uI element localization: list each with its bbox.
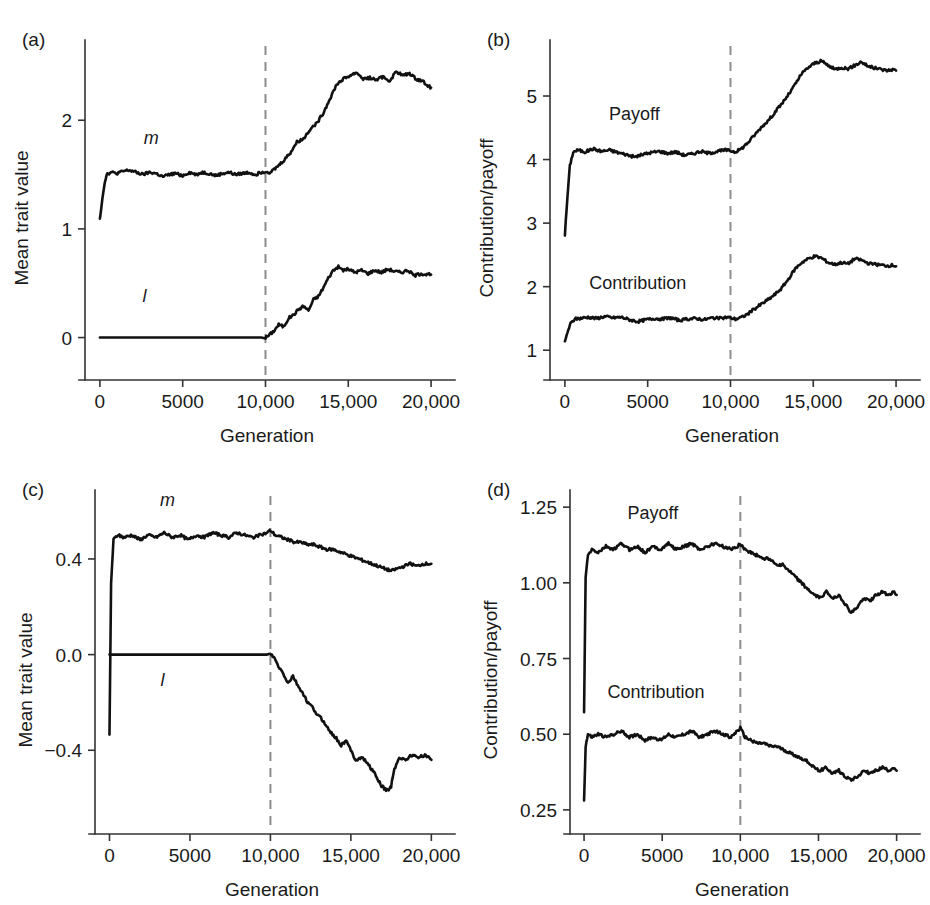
- chart-panel-d: (d)0.250.500.751.001.250500010,00015,000…: [465, 452, 930, 905]
- chart-svg-a: (a)0120500010,00015,00020,000mlGeneratio…: [0, 0, 465, 453]
- series-annotation-label: m: [144, 128, 159, 148]
- x-tick-label: 20,000: [868, 845, 926, 866]
- y-axis-title: Contribution/payoff: [480, 600, 501, 760]
- y-axis-title: Contribution/payoff: [476, 138, 497, 298]
- y-tick-label: 0.75: [520, 649, 557, 670]
- x-tick-label: 20,000: [867, 391, 925, 412]
- series-annotation-label: l: [161, 670, 166, 690]
- x-tick-label: 5000: [641, 845, 683, 866]
- x-tick-label: 10,000: [241, 845, 299, 866]
- y-tick-label: 3: [526, 213, 537, 234]
- panel-letter-c: (c): [22, 479, 44, 500]
- series-annotation-label: l: [143, 286, 148, 306]
- panel-letter-b: (b): [487, 29, 510, 50]
- x-tick-label: 5000: [627, 391, 669, 412]
- chart-svg-d: (d)0.250.500.751.001.250500010,00015,000…: [465, 452, 930, 905]
- chart-panel-a: (a)0120500010,00015,00020,000mlGeneratio…: [0, 0, 465, 452]
- x-tick-label: 20,000: [402, 845, 460, 866]
- y-tick-label: 0.0: [56, 645, 82, 666]
- panel-letter-d: (d): [487, 479, 510, 500]
- x-tick-label: 5000: [169, 845, 211, 866]
- y-tick-label: 2: [526, 277, 537, 298]
- figure-panel-grid: (a)0120500010,00015,00020,000mlGeneratio…: [0, 0, 930, 905]
- x-tick-label: 10,000: [236, 391, 294, 412]
- series-annotation-label: Contribution: [589, 273, 686, 293]
- x-axis-title: Generation: [220, 425, 314, 446]
- y-tick-label: 2: [61, 110, 72, 131]
- x-tick-label: 0: [560, 391, 571, 412]
- x-tick-label: 0: [104, 845, 115, 866]
- series-annotation-label: m: [160, 490, 175, 510]
- y-tick-label: −0.4: [44, 740, 82, 761]
- x-tick-label: 15,000: [322, 845, 380, 866]
- y-tick-label: 0.4: [56, 549, 83, 570]
- y-axis-title: Mean trait value: [11, 150, 32, 285]
- x-tick-label: 15,000: [789, 845, 847, 866]
- x-tick-label: 5000: [162, 391, 204, 412]
- panel-letter-a: (a): [22, 29, 45, 50]
- series-annotation-label: Payoff: [609, 104, 661, 124]
- y-tick-label: 1.25: [520, 497, 557, 518]
- x-tick-label: 15,000: [784, 391, 842, 412]
- x-tick-label: 0: [579, 845, 590, 866]
- x-tick-label: 0: [95, 391, 106, 412]
- x-axis-title: Generation: [695, 879, 789, 900]
- chart-panel-b: (b)123450500010,00015,00020,000PayoffCon…: [465, 0, 930, 452]
- x-axis-title: Generation: [685, 425, 779, 446]
- x-axis-title: Generation: [225, 879, 319, 900]
- y-tick-label: 0.50: [520, 724, 557, 745]
- x-tick-label: 15,000: [319, 391, 377, 412]
- series-annotation-label: Payoff: [627, 503, 679, 523]
- y-tick-label: 5: [526, 86, 537, 107]
- x-tick-label: 10,000: [711, 845, 769, 866]
- y-tick-label: 1: [61, 219, 72, 240]
- data-series-contribution: [565, 255, 896, 341]
- y-axis-title: Mean trait value: [15, 612, 36, 747]
- x-tick-label: 20,000: [402, 391, 460, 412]
- y-tick-label: 0: [61, 328, 72, 349]
- y-tick-label: 1.00: [520, 573, 557, 594]
- chart-svg-c: (c)−0.40.00.40500010,00015,00020,000mlGe…: [0, 452, 465, 905]
- y-tick-label: 0.25: [520, 800, 557, 821]
- chart-svg-b: (b)123450500010,00015,00020,000PayoffCon…: [465, 0, 930, 453]
- chart-panel-c: (c)−0.40.00.40500010,00015,00020,000mlGe…: [0, 452, 465, 905]
- y-tick-label: 1: [526, 340, 537, 361]
- x-tick-label: 10,000: [701, 391, 759, 412]
- y-tick-label: 4: [526, 150, 537, 171]
- series-annotation-label: Contribution: [607, 682, 704, 702]
